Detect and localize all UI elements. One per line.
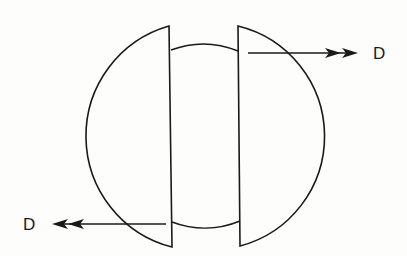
right-hemisphere	[238, 26, 325, 246]
split-sphere-diagram	[0, 0, 407, 256]
left-double-arrowhead-icon	[52, 219, 84, 229]
diagram-canvas: D D	[0, 0, 407, 256]
inner-circle-bottom-arc	[172, 221, 240, 228]
left-force-label: D	[23, 216, 35, 233]
inner-circle-top-arc	[171, 44, 238, 51]
right-force-label: D	[373, 45, 385, 62]
left-hemisphere	[86, 26, 172, 247]
